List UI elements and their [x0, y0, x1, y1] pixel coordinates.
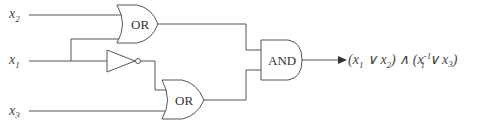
wire-or-bottom-out	[204, 70, 261, 100]
or-gate-top-label: OR	[131, 17, 149, 32]
and-gate: AND	[261, 40, 302, 80]
or-gate-bottom-label: OR	[175, 93, 193, 108]
or-gate-top: OR	[117, 5, 158, 43]
input-label-x2: x2	[8, 6, 20, 24]
wire-not-out	[141, 61, 166, 90]
and-gate-label: AND	[268, 53, 296, 68]
inversion-bubble	[136, 59, 141, 64]
or-gate-bottom: OR	[162, 80, 204, 119]
wire-or-top-out	[158, 24, 261, 50]
arrow-head-icon	[338, 56, 347, 64]
input-label-x1: x1	[8, 52, 20, 70]
not-gate	[107, 50, 141, 72]
input-label-x3: x3	[8, 103, 20, 120]
logic-circuit-diagram: x2 x1 x3 OR OR AND (x1 ∨ x2) ∧ (x-11 ∨ x…	[0, 0, 496, 132]
output-expression: (x1 ∨ x2) ∧ (x-11 ∨ x3)	[348, 51, 458, 70]
